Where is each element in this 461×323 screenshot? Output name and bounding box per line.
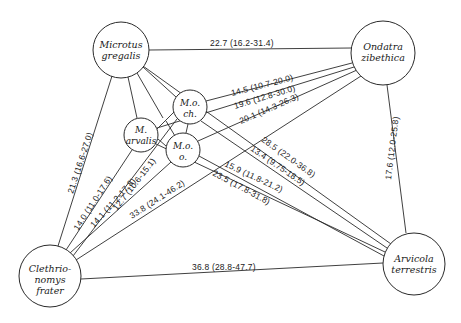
edge-oz-cf: [76, 76, 361, 260]
node-ondatra-zibethica: Ondatra zibethica: [351, 21, 415, 85]
svg-text:arvalis: arvalis: [126, 136, 157, 146]
svg-text:Clethrio-: Clethrio-: [29, 263, 71, 274]
svg-text:M.: M.: [134, 125, 147, 135]
edge-label-mg-cf: 21.3 (16.6-27.0): [65, 131, 94, 195]
svg-text:terrestris: terrestris: [391, 264, 436, 275]
edge-label-mg-oz: 22.7 (16.2-31.4): [210, 38, 274, 48]
svg-text:Ondatra: Ondatra: [363, 41, 403, 52]
svg-text:Microtus: Microtus: [98, 39, 142, 50]
node-arvicola-terrestris: Arvicola terrestris: [383, 233, 445, 295]
edge-mg-moo: [137, 73, 163, 118]
edge-moch-moo: [186, 124, 188, 133]
node-clethrionomys-frater: Clethrio- nomys frater: [19, 245, 81, 307]
edge-mg-oz: [149, 48, 351, 50]
node-microtus-gregalis: Microtus gregalis: [93, 22, 149, 78]
svg-text:M.o.: M.o.: [172, 141, 193, 151]
svg-text:Arvicola: Arvicola: [393, 253, 434, 264]
svg-text:ch.: ch.: [183, 109, 197, 119]
svg-text:nomys: nomys: [34, 274, 65, 285]
svg-text:gregalis: gregalis: [102, 50, 141, 61]
svg-text:zibethica: zibethica: [360, 52, 405, 63]
svg-text:M.o.: M.o.: [179, 98, 200, 108]
edge-mg-ma: [128, 77, 137, 118]
svg-text:o.: o.: [179, 152, 187, 162]
node-mo-ch: M.o. ch.: [173, 90, 207, 124]
edge-label-cf-at: 36.8 (28.8-47.7): [192, 262, 256, 272]
distance-network-diagram: 22.7 (16.2-31.4) 14.5 (10.7-20.0) 19.6 (…: [0, 0, 461, 323]
node-mo-o: M.o. o.: [166, 133, 200, 167]
svg-text:frater: frater: [35, 285, 65, 296]
node-m-arvalis: M. arvalis: [124, 118, 158, 152]
